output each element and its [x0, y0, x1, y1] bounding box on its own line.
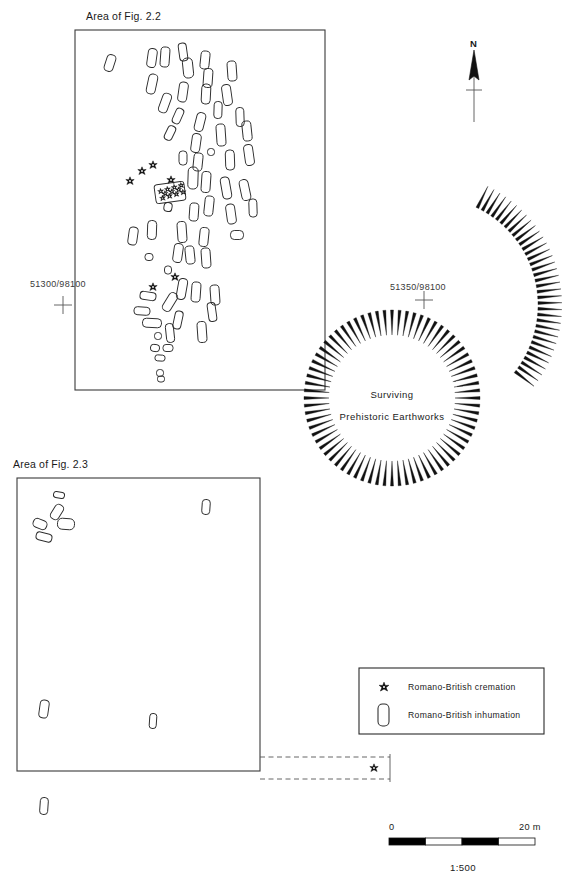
area-fig22-label: Area of Fig. 2.2	[86, 10, 161, 22]
inhumation-grave	[231, 231, 244, 240]
cremation-cluster-enclosure	[154, 181, 187, 204]
cremation-burial	[173, 191, 180, 197]
inhumation-grave	[241, 121, 252, 142]
inhumation-grave	[225, 203, 237, 224]
earthwork-hachure	[454, 381, 479, 387]
inhumation-grave	[188, 167, 199, 189]
earthwork-hachure	[537, 313, 561, 317]
scale-bar-end-label: 20 m	[519, 822, 541, 832]
earthwork-hachure	[329, 443, 348, 462]
earthwork-hachure	[319, 346, 340, 362]
inhumation-grave	[201, 171, 211, 193]
north-arrow	[466, 50, 482, 122]
earthwork-hachure	[397, 310, 401, 335]
inhumation-grave	[220, 176, 233, 199]
scale-bar-graphic	[389, 838, 535, 845]
earthwork-hachure	[518, 366, 539, 381]
earthwork-hachure	[437, 335, 456, 354]
earthwork-arc-hachures	[476, 186, 562, 386]
earthwork-hachure	[455, 389, 480, 393]
earthwork-hachure	[495, 201, 511, 221]
grid-coordinate-label-east: 51350/98100	[390, 282, 446, 292]
inhumation-grave	[145, 254, 153, 261]
earthwork-hachure	[414, 457, 424, 481]
earthwork-hachure	[319, 434, 340, 450]
inhumation-grave	[147, 220, 157, 239]
earthwork-hachure	[324, 340, 344, 357]
inhumation-grave	[236, 107, 245, 126]
earthwork-hachure	[444, 346, 465, 362]
inhumation-grave	[225, 150, 235, 170]
inhumation-grave	[38, 699, 49, 718]
inhumation-grave	[39, 797, 48, 815]
inhumation-grave	[200, 51, 211, 70]
earthwork-hachure	[391, 310, 394, 335]
earthwork-hachure	[455, 403, 480, 407]
site-plan-figure: Area of Fig. 2.2 Area of Fig. 2.3 51300/…	[0, 0, 564, 889]
inhumation-grave	[199, 227, 210, 247]
earthwork-hachure	[515, 226, 535, 242]
inhumation-grave	[238, 179, 251, 201]
dashed-corridor	[260, 754, 390, 782]
scale-bar-segment	[389, 838, 426, 845]
grid-coordinate-label-west: 51300/98100	[30, 279, 86, 289]
cremation-burial	[171, 273, 179, 281]
scale-bar-segment	[462, 838, 499, 845]
earthwork-hachure	[500, 205, 517, 224]
earthwork-hachure	[455, 397, 480, 400]
inhumation-graves-fig23	[32, 491, 211, 815]
earthwork-hachure	[512, 220, 531, 237]
earthwork-hachure	[324, 439, 344, 456]
inhumation-grave	[201, 499, 210, 515]
earthwork-hachure	[340, 325, 356, 346]
cremation-burial	[126, 177, 134, 185]
earthwork-hachure	[536, 282, 560, 288]
legend-label-cremation: Romano-British cremation	[408, 682, 516, 692]
inhumation-grave	[177, 81, 189, 102]
earthwork-hachure	[375, 311, 381, 336]
inhumation-grave	[157, 370, 164, 377]
earthwork-hachure	[535, 275, 559, 282]
earthwork-hachure	[304, 397, 329, 400]
earthwork-hachure	[440, 439, 460, 456]
earthwork-hachure	[533, 269, 556, 277]
earthwork-hachure	[519, 231, 540, 246]
earthwork-hachure	[433, 330, 450, 350]
earthwork-hachure	[334, 446, 351, 466]
inhumation-grave	[172, 243, 184, 263]
inhumation-grave	[243, 144, 255, 166]
inhumation-grave	[216, 124, 227, 147]
inhumation-grave	[140, 291, 157, 301]
earthwork-hachure	[451, 366, 475, 376]
inhumation-grave	[163, 345, 173, 352]
earthwork-hachure	[454, 409, 479, 415]
area-fig22-boundary	[75, 30, 325, 390]
earthwork-hachure	[403, 311, 409, 336]
earthwork-hachure	[486, 193, 500, 214]
inhumation-grave	[201, 248, 211, 269]
earthwork-label-line2: Prehistoric Earthworks	[340, 411, 445, 422]
earthwork-hachure	[440, 340, 460, 357]
earthwork-hachure	[329, 335, 348, 354]
north-arrow-label: N	[470, 38, 477, 49]
inhumation-grave	[163, 202, 172, 212]
inhumation-grave	[163, 125, 177, 142]
earthwork-hachure	[375, 460, 381, 485]
earthwork-hachure	[536, 324, 560, 330]
inhumation-grave	[179, 151, 187, 165]
earthwork-hachure	[522, 237, 543, 251]
inhumation-grave	[172, 310, 184, 329]
inhumation-grave	[35, 531, 52, 543]
earthwork-hachure	[304, 403, 329, 407]
grid-cross-icon	[415, 291, 433, 309]
inhumation-grave	[146, 73, 159, 94]
earthwork-hachure	[514, 370, 534, 386]
inhumation-grave	[161, 291, 179, 313]
inhumation-grave	[142, 318, 161, 328]
earthwork-hachure	[397, 461, 401, 486]
inhumation-grave	[227, 61, 237, 82]
earthwork-hachure	[360, 457, 370, 481]
inhumation-grave	[249, 199, 258, 217]
plan-svg	[0, 0, 564, 889]
earthwork-hachure	[444, 434, 465, 450]
